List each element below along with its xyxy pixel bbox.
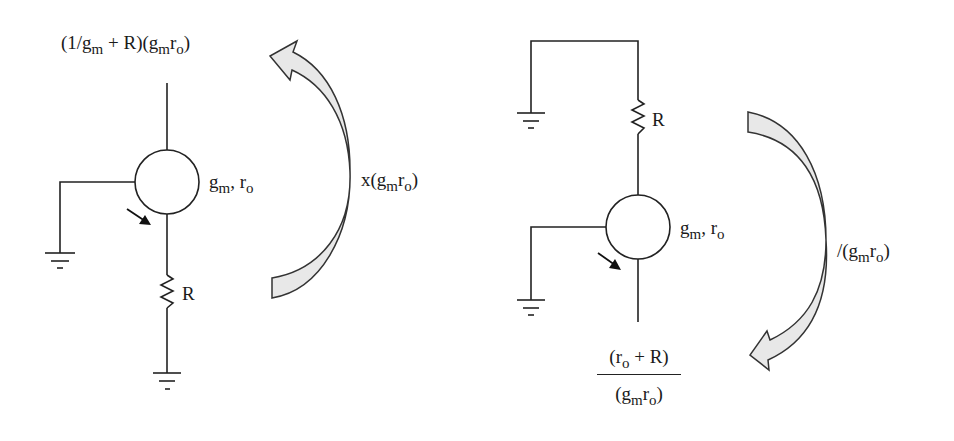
device-subscript: o <box>717 226 725 242</box>
device-subscript: m <box>219 180 231 196</box>
circuit-diagram <box>0 0 954 441</box>
arrow-text: ) <box>412 169 418 190</box>
arrow-text: x(g <box>361 169 386 190</box>
left-circuit <box>45 41 350 389</box>
impedance-subscript: m <box>92 41 104 57</box>
arrow-subscript: m <box>386 178 398 194</box>
device-text: g <box>680 217 690 238</box>
left-current-arrow-icon <box>127 209 151 225</box>
device-text: g <box>209 171 219 192</box>
arrow-text: ) <box>884 240 890 261</box>
right-arrow-label: /(gmro) <box>837 241 890 260</box>
left-device-label: gm, ro <box>209 172 254 191</box>
fraction-numerator: (ro + R) <box>597 346 681 374</box>
right-device-label: gm, ro <box>680 218 725 237</box>
arrow-subscript: o <box>876 249 884 265</box>
left-resistor-icon <box>161 275 173 308</box>
right-gate-ground-icon <box>517 300 545 315</box>
fraction-denominator: (gmro) <box>597 375 681 405</box>
right-top-wire <box>531 41 638 113</box>
left-transistor-symbol <box>135 150 199 214</box>
denominator-text: ) <box>657 383 663 404</box>
left-gate-ground-icon <box>45 253 75 268</box>
arrow-text: /(g <box>837 240 858 261</box>
right-resistor-icon <box>632 100 644 134</box>
left-bottom-ground-icon <box>153 373 181 389</box>
left-gate-wire <box>60 182 135 253</box>
right-transform-arrow-icon <box>748 112 827 370</box>
left-arrow-label: x(gmro) <box>361 170 418 189</box>
arrow-subscript: m <box>858 249 870 265</box>
left-transform-arrow-icon <box>270 41 350 298</box>
right-transistor-symbol <box>606 195 670 259</box>
impedance-subscript: m <box>158 41 170 57</box>
numerator-text: (r <box>609 346 622 367</box>
device-text: , r <box>230 171 246 192</box>
numerator-text: + R) <box>629 346 668 367</box>
denominator-subscript: o <box>649 392 657 408</box>
right-top-ground-icon <box>517 113 545 128</box>
impedance-text: + R)(g <box>103 32 158 53</box>
right-circuit <box>517 41 827 370</box>
right-gate-wire <box>531 227 606 300</box>
impedance-text: (1/g <box>61 32 92 53</box>
left-top-impedance-label: (1/gm + R)(gmro) <box>61 33 190 52</box>
impedance-text: ) <box>184 32 190 53</box>
denominator-text: (g <box>615 383 631 404</box>
right-bottom-impedance-fraction: (ro + R) (gmro) <box>597 346 681 405</box>
device-subscript: m <box>690 226 702 242</box>
device-subscript: o <box>246 180 254 196</box>
right-resistor-label: R <box>652 110 665 129</box>
device-text: , r <box>701 217 717 238</box>
impedance-subscript: o <box>176 41 184 57</box>
right-current-arrow-icon <box>598 253 621 270</box>
denominator-subscript: m <box>631 392 643 408</box>
left-resistor-label: R <box>182 284 195 303</box>
arrow-subscript: o <box>404 178 412 194</box>
